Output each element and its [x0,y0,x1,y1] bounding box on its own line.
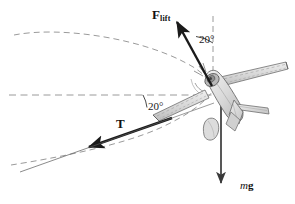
thrust-extension-line [20,118,172,172]
lift-label-subscript: lift [160,14,171,23]
physics-figure: Flift T mg 20° 20° [0,0,295,204]
force-vectors [20,22,214,172]
weight-vector-label: mg [240,180,253,191]
reference-guides [9,16,213,95]
lift-label-main: F [152,7,160,22]
weight-label-mass: m [240,179,248,191]
weight-label-gravity: g [248,179,254,191]
lift-vector [177,22,212,86]
angle-label-thrust: 20° [148,101,163,112]
lift-vector-label: Flift [152,8,171,23]
upper-circular-path-arc [14,32,211,86]
landing-gear-pod [203,118,218,140]
flight-path-arcs [11,32,213,165]
angle-label-lift: 20° [199,34,214,45]
angle-arc-thrust [143,95,147,108]
thrust-vector-label: T [116,117,125,130]
